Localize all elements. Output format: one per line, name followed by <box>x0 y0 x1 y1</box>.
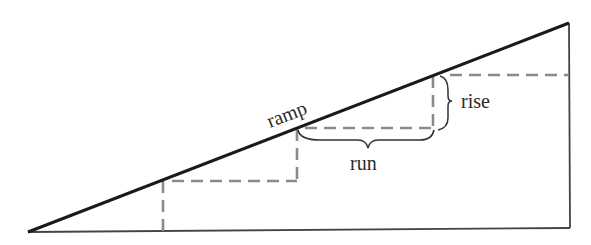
run-brace-icon <box>298 130 434 148</box>
right-side-line <box>569 23 570 228</box>
base-line <box>28 228 570 232</box>
rise-label: rise <box>461 90 490 112</box>
ramp-diagram: ramp rise run <box>0 0 591 245</box>
ramp-line <box>28 23 569 232</box>
run-label: run <box>350 152 377 174</box>
rise-brace-icon <box>438 76 452 130</box>
